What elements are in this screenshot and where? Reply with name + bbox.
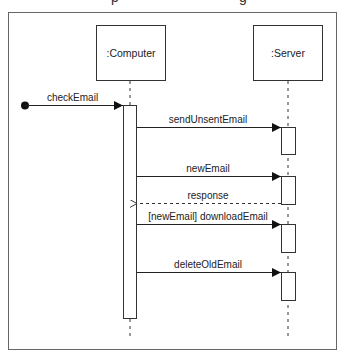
title-glyph-p: p [111,0,119,5]
message-newEmail: newEmail [137,163,281,177]
sequence-diagram: p g :Computer :Server checkEmail sendUns… [0,0,344,354]
message-label-response: response [187,190,229,201]
activation-bar-computer [124,106,137,319]
message-label-newEmail: newEmail [186,163,229,174]
activation-bar-server-1 [282,128,296,155]
message-checkEmail: checkEmail [21,92,123,110]
message-label-downloadEmail: [newEmail] downloadEmail [148,211,268,222]
activation-bar-server-4 [282,273,296,301]
message-deleteOldEmail: deleteOldEmail [137,259,281,273]
object-label-computer: :Computer [106,47,156,59]
activation-bar-server-3 [282,225,296,253]
message-sendUnsentEmail: sendUnsentEmail [137,114,281,128]
message-downloadEmail: [newEmail] downloadEmail [137,211,281,225]
message-label-sendUnsentEmail: sendUnsentEmail [169,114,247,125]
activation-bar-server-2 [282,177,296,205]
message-label-checkEmail: checkEmail [47,92,98,103]
diagram-title-fragment: p g [111,0,247,5]
lifeline-computer: :Computer [97,26,166,338]
title-glyph-g: g [239,0,247,5]
message-label-deleteOldEmail: deleteOldEmail [174,259,242,270]
object-label-server: :Server [271,47,305,59]
lifeline-server: :Server [254,26,323,338]
message-response: response [137,190,281,204]
